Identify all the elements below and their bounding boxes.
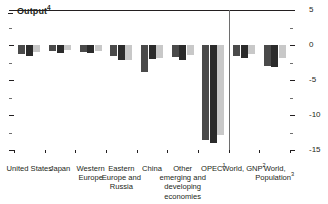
bar bbox=[110, 45, 117, 56]
x-axis-tick bbox=[198, 150, 199, 153]
x-axis-tick bbox=[259, 150, 260, 153]
y-axis-tick-label: 5 bbox=[309, 6, 313, 14]
left-axis-tick-minor bbox=[9, 63, 12, 64]
x-axis-tick bbox=[137, 150, 138, 153]
left-axis-tick-major bbox=[9, 80, 14, 81]
bar bbox=[279, 45, 286, 58]
y-axis-tick-label: -10 bbox=[309, 111, 321, 119]
left-axis-tick-major bbox=[9, 115, 14, 116]
x-axis-tick bbox=[75, 150, 76, 153]
x-axis-tick bbox=[14, 150, 15, 153]
bar bbox=[233, 45, 240, 56]
bar bbox=[33, 45, 40, 52]
bar bbox=[187, 45, 194, 55]
title-dash-marker bbox=[8, 13, 13, 14]
bar bbox=[118, 45, 125, 60]
left-axis-tick-minor bbox=[9, 28, 12, 29]
bar bbox=[87, 45, 94, 53]
bar bbox=[125, 45, 132, 60]
right-axis-tick-minor bbox=[290, 98, 293, 99]
x-axis-tick bbox=[106, 150, 107, 153]
y-axis-tick-label: 0 bbox=[309, 41, 313, 49]
bar bbox=[64, 45, 71, 50]
left-axis-tick-major bbox=[9, 45, 14, 46]
bar bbox=[241, 45, 248, 58]
bar bbox=[217, 45, 224, 135]
y-axis-tick-label: -5 bbox=[309, 76, 316, 84]
right-axis-tick-major bbox=[290, 115, 295, 116]
bar bbox=[156, 45, 163, 58]
bar bbox=[172, 45, 179, 57]
bar bbox=[271, 45, 278, 67]
category-label: World, Population3 bbox=[251, 164, 298, 182]
x-axis-tick bbox=[45, 150, 46, 153]
bar bbox=[95, 45, 102, 51]
bottom-axis-line bbox=[14, 10, 290, 11]
bar bbox=[202, 45, 209, 140]
right-axis-tick-minor bbox=[290, 63, 293, 64]
bar bbox=[264, 45, 271, 66]
left-axis-tick-major bbox=[9, 10, 14, 11]
bar bbox=[80, 45, 87, 52]
right-axis-tick-major bbox=[290, 45, 295, 46]
chart-page: Output4 50-5-10-15 United StatesJapanWes… bbox=[0, 0, 328, 204]
left-axis-tick-minor bbox=[9, 133, 12, 134]
bar bbox=[210, 45, 217, 143]
bar bbox=[179, 45, 186, 60]
bar bbox=[149, 45, 156, 59]
plot-area: 50-5-10-15 United StatesJapanWestern Eur… bbox=[14, 10, 290, 150]
right-axis-tick-major bbox=[290, 10, 295, 11]
bar bbox=[26, 45, 33, 56]
group-divider-line bbox=[229, 10, 230, 150]
category-footnote-marker: 3 bbox=[291, 172, 294, 178]
y-axis-tick-label: -15 bbox=[309, 146, 321, 154]
bar bbox=[18, 45, 25, 54]
bar bbox=[248, 45, 255, 54]
right-axis-tick-minor bbox=[290, 133, 293, 134]
left-axis-tick-minor bbox=[9, 98, 12, 99]
bar bbox=[49, 45, 56, 51]
x-axis-tick bbox=[229, 150, 230, 153]
right-axis-tick-major bbox=[290, 80, 295, 81]
right-axis-tick-minor bbox=[290, 28, 293, 29]
x-axis-tick bbox=[290, 150, 291, 153]
bar bbox=[57, 45, 64, 53]
x-axis-tick bbox=[167, 150, 168, 153]
bar bbox=[141, 45, 148, 72]
